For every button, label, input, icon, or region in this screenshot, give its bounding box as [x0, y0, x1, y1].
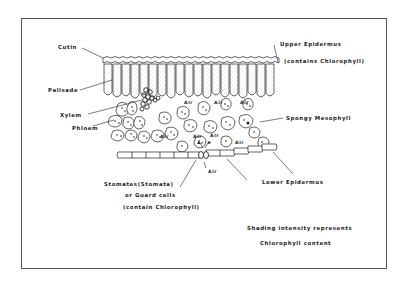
legend-line-1: Shading intensity represents — [247, 226, 352, 231]
label-guard-cells-note: (contain Chlorophyll) — [123, 205, 200, 210]
palisade-cells — [104, 64, 274, 98]
label-air: Air — [160, 135, 169, 140]
label-or-guard-cells: or Guard cells — [125, 193, 176, 198]
label-upper-epidermis-note: (contains Chlorophyll) — [284, 59, 364, 64]
leaf-cross-section-drawing — [0, 0, 408, 285]
label-air: Air — [240, 101, 249, 106]
label-cutin: Cutin — [58, 45, 77, 50]
cutin-layer — [103, 57, 279, 59]
legend-line-2: Chlorophyll content — [260, 241, 331, 246]
label-air: Air — [235, 141, 244, 146]
label-upper-epidermis: Upper Epidermus — [280, 42, 342, 47]
label-phloem: Phloem — [72, 126, 98, 131]
label-stomates: Stomates(Stomata) — [104, 182, 174, 187]
label-air: Air — [208, 170, 217, 175]
label-spongy-mesophyll: Spongy Mesophyll — [286, 116, 351, 121]
label-palisade: Palisade — [48, 88, 78, 93]
label-air: Air — [184, 101, 193, 106]
label-air: Air — [210, 134, 219, 139]
label-air: Air — [193, 135, 202, 140]
upper-epidermis-layer — [103, 62, 279, 64]
guard-cells — [199, 152, 209, 159]
label-air: Air — [214, 101, 223, 106]
label-lower-epidermis: Lower Epidermus — [262, 180, 324, 185]
label-xylem: Xylem — [60, 113, 82, 118]
